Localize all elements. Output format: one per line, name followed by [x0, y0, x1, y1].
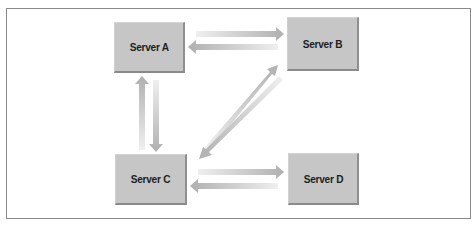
arrow-c-to-b — [205, 65, 278, 151]
server-a-label: Server A — [129, 41, 168, 53]
server-b-label: Server B — [303, 38, 343, 50]
server-c-box: Server C — [115, 154, 187, 205]
arrow-a-to-c — [149, 80, 163, 152]
server-b-box: Server B — [287, 17, 359, 71]
server-d-box: Server D — [288, 153, 359, 205]
connection-arrows — [0, 0, 476, 227]
arrow-a-to-b — [196, 27, 284, 41]
arrow-c-to-d — [198, 165, 284, 179]
server-c-label: Server C — [131, 173, 171, 185]
server-a-box: Server A — [114, 22, 185, 73]
arrow-d-to-c — [190, 179, 278, 193]
arrow-b-to-c — [199, 76, 283, 159]
arrow-c-to-a — [135, 76, 149, 150]
arrow-b-to-a — [188, 40, 278, 54]
server-d-label: Server D — [303, 173, 343, 185]
